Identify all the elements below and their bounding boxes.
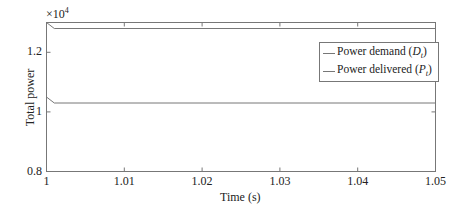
series-power-delivered — [47, 97, 436, 103]
series-power-demand — [47, 23, 436, 29]
legend-line-icon — [323, 71, 335, 72]
legend-line-icon — [323, 53, 335, 54]
x-tick-label: 1.04 — [346, 174, 370, 189]
x-tick-label: 1.02 — [190, 174, 214, 189]
y-multiplier: ×104 — [46, 6, 69, 22]
x-tick-label: 1.05 — [424, 174, 448, 189]
x-axis-label: Time (s) — [220, 190, 261, 205]
y-axis-label: Total power — [23, 58, 38, 138]
line-chart — [0, 0, 456, 214]
legend: Power demand (Dt) Power delivered (Pt) — [319, 42, 439, 82]
x-tick-label: 1.01 — [112, 174, 136, 189]
x-tick-label: 1 — [35, 174, 59, 189]
x-tick-label: 1.03 — [268, 174, 292, 189]
